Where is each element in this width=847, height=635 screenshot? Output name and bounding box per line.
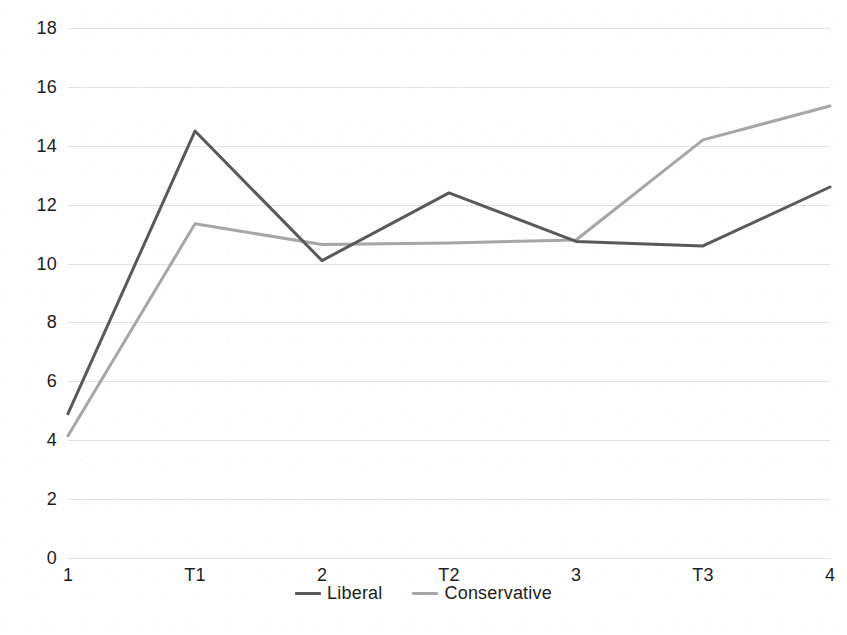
y-tick-label-8: 8: [47, 312, 57, 333]
y-tick-label-4: 4: [47, 430, 57, 451]
y-tick-label-16: 16: [37, 76, 57, 97]
y-tick-label-0: 0: [47, 548, 57, 569]
plot-area: 024681012141618 1T12T23T34: [68, 28, 830, 558]
chart-legend: Liberal Conservative: [0, 583, 847, 604]
series-lines-group: [68, 28, 830, 558]
legend-item-liberal[interactable]: Liberal: [295, 583, 382, 604]
line-series-conservative: [68, 106, 830, 436]
y-tick-label-14: 14: [37, 135, 57, 156]
y-tick-label-2: 2: [47, 489, 57, 510]
y-tick-label-6: 6: [47, 371, 57, 392]
legend-label-liberal: Liberal: [327, 583, 382, 604]
line-series-liberal: [68, 131, 830, 414]
y-tick-label-18: 18: [37, 18, 57, 39]
y-tick-label-12: 12: [37, 194, 57, 215]
legend-swatch-conservative: [412, 592, 438, 595]
legend-swatch-liberal: [295, 592, 321, 595]
line-chart-figure: 024681012141618 1T12T23T34 Liberal Conse…: [0, 0, 847, 635]
legend-label-conservative: Conservative: [444, 583, 551, 604]
legend-item-conservative[interactable]: Conservative: [412, 583, 551, 604]
gridline-y-0: [68, 558, 830, 559]
y-tick-label-10: 10: [37, 253, 57, 274]
